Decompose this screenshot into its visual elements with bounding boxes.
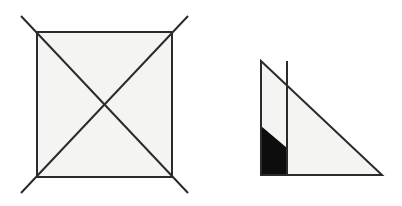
right-triangle-with-partition-group — [261, 61, 382, 175]
figure-canvas — [0, 0, 402, 206]
square-with-diagonals-group — [21, 16, 188, 193]
figure-svg — [0, 0, 402, 206]
